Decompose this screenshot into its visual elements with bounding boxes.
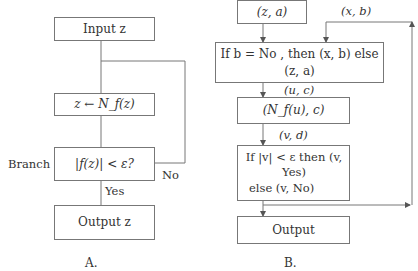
newton-box: (N_f(u), c) xyxy=(237,97,350,124)
output-label: Output xyxy=(272,222,315,238)
test-line-2: else (v, No) xyxy=(239,181,314,197)
convergence-test-box: If |v| < ε then (v, Yes) else (v, No) xyxy=(237,145,350,201)
caption-b: B. xyxy=(284,256,297,270)
output-z-label: Output z xyxy=(78,214,131,230)
uc-edge-label: (u, c) xyxy=(284,83,314,97)
za-input-label: (z, a) xyxy=(257,4,287,20)
newton-label: (N_f(u), c) xyxy=(263,102,325,118)
branch-test-label: |f(z)| < ε? xyxy=(75,156,134,172)
output-z-box: Output z xyxy=(54,205,155,240)
newton-update-box: z ← N_f(z) xyxy=(54,93,155,116)
select-label: If b = No , then (x, b) else (z, a) xyxy=(216,46,383,78)
vd-edge-label: (v, d) xyxy=(279,128,308,142)
branch-test-box: |f(z)| < ε? xyxy=(54,147,155,181)
za-input-box: (z, a) xyxy=(237,0,307,24)
input-z-label: Input z xyxy=(83,21,126,37)
newton-update-label: z ← N_f(z) xyxy=(74,96,135,112)
input-z-box: Input z xyxy=(54,17,155,41)
output-box: Output xyxy=(237,216,350,244)
no-label: No xyxy=(162,168,179,182)
caption-a: A. xyxy=(85,256,97,270)
yes-label: Yes xyxy=(105,184,124,198)
xb-feedback-label: (x, b) xyxy=(341,4,371,18)
select-box: If b = No , then (x, b) else (z, a) xyxy=(215,42,384,83)
test-line-1: If |v| < ε then (v, Yes) xyxy=(239,150,349,181)
branch-label: Branch xyxy=(8,157,50,171)
